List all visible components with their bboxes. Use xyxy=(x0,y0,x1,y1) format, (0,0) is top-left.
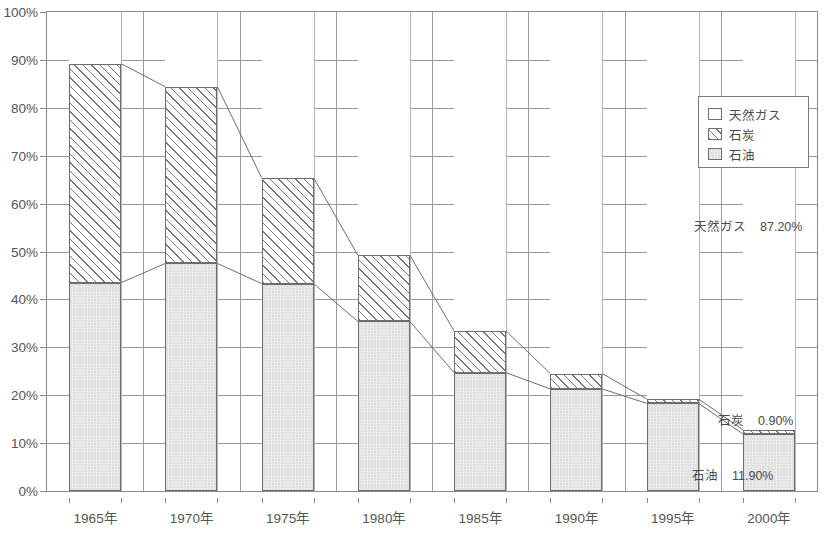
connector-line-oil xyxy=(602,389,646,403)
annotation-gas: 天然ガス87.20% xyxy=(694,216,802,235)
connector-line-oil xyxy=(410,321,454,372)
x-axis-tick-mark xyxy=(262,498,263,503)
legend-label: 石油 xyxy=(729,145,755,164)
x-axis-tick-mark xyxy=(699,498,700,503)
annotation-coal: 石炭0.90% xyxy=(718,410,793,429)
legend-item[interactable]: 石炭 xyxy=(708,124,808,144)
bar-column[interactable] xyxy=(647,12,699,491)
bar-segment-gas[interactable] xyxy=(647,12,699,399)
bar-segment-oil[interactable] xyxy=(262,284,314,491)
x-axis-tick-mark xyxy=(602,498,603,503)
annotation-label: 石炭 xyxy=(718,410,744,429)
x-axis-tick-mark xyxy=(69,498,70,503)
x-axis-tick-mark xyxy=(314,498,315,503)
bar-column[interactable] xyxy=(454,12,506,491)
bar-column[interactable] xyxy=(550,12,602,491)
bar-segment-coal[interactable] xyxy=(358,255,410,321)
x-axis-tick-label: 1985年 xyxy=(459,507,502,527)
y-axis-tick-label: 90% xyxy=(11,52,38,67)
bar-segment-coal[interactable] xyxy=(262,178,314,284)
y-axis-tick-label: 0% xyxy=(18,484,38,499)
x-axis-tick-mark xyxy=(165,498,166,503)
connector-line-coal xyxy=(121,64,165,87)
bar-segment-gas[interactable] xyxy=(165,12,217,87)
x-axis-tick-mark xyxy=(454,498,455,503)
x-axis-tick-mark xyxy=(647,498,648,503)
annotation-value: 0.90% xyxy=(758,414,793,428)
connector-line-oil xyxy=(314,284,358,322)
x-axis-tick-mark xyxy=(121,498,122,503)
legend-swatch-diagonal-hatch xyxy=(708,128,722,140)
bar-segment-oil[interactable] xyxy=(647,403,699,491)
connector-line-coal xyxy=(506,331,550,374)
bar-segment-oil[interactable] xyxy=(69,283,121,491)
y-axis-tick-label: 100% xyxy=(3,5,38,20)
bar-column[interactable] xyxy=(358,12,410,491)
y-axis-tick-label: 30% xyxy=(11,340,38,355)
y-axis-tick-label: 70% xyxy=(11,148,38,163)
legend: 天然ガス石炭石油 xyxy=(698,96,809,168)
y-axis-labels: 0%10%20%30%40%50%60%70%80%90%100% xyxy=(0,11,42,492)
connector-line-oil xyxy=(506,373,550,389)
bar-column[interactable] xyxy=(262,12,314,491)
x-axis-tick-mark xyxy=(795,498,796,503)
annotation-label: 石油 xyxy=(692,465,718,484)
legend-swatch-dotted-gray xyxy=(708,148,722,160)
bar-segment-gas[interactable] xyxy=(262,12,314,178)
annotation-value: 11.90% xyxy=(732,469,773,483)
y-axis-tick-label: 60% xyxy=(11,196,38,211)
y-axis-tick-label: 50% xyxy=(11,244,38,259)
x-axis-tick-label: 1995年 xyxy=(651,507,694,527)
bar-segment-oil[interactable] xyxy=(165,263,217,491)
bar-segment-gas[interactable] xyxy=(358,12,410,255)
x-axis-tick-label: 1965年 xyxy=(74,507,117,527)
x-axis-tick-label: 1970年 xyxy=(170,507,213,527)
bar-segment-coal[interactable] xyxy=(454,331,506,373)
connector-line-coal xyxy=(602,374,646,399)
legend-label: 石炭 xyxy=(729,125,755,144)
legend-swatch-solid-white xyxy=(708,108,722,120)
connector-line-coal xyxy=(314,178,358,256)
plot-area: 天然ガス石炭石油 xyxy=(46,11,818,492)
y-axis-tick-label: 20% xyxy=(11,388,38,403)
x-axis-tick-mark xyxy=(550,498,551,503)
bar-segment-coal[interactable] xyxy=(69,64,121,283)
x-axis-tick-mark xyxy=(410,498,411,503)
bar-segment-oil[interactable] xyxy=(550,389,602,491)
connector-line-coal xyxy=(410,255,454,331)
bar-segment-oil[interactable] xyxy=(454,373,506,491)
connector-line-oil xyxy=(217,263,261,283)
x-axis-tick-label: 1975年 xyxy=(266,507,309,527)
x-axis-tick-mark xyxy=(743,498,744,503)
x-axis-tick-label: 1990年 xyxy=(555,507,598,527)
chart-canvas: 0%10%20%30%40%50%60%70%80%90%100% 天然ガス石炭… xyxy=(0,0,828,539)
y-axis-tick-label: 10% xyxy=(11,436,38,451)
connector-line-oil xyxy=(121,263,165,282)
connector-line-coal xyxy=(217,87,261,178)
annotation-label: 天然ガス xyxy=(694,216,746,235)
bar-segment-coal[interactable] xyxy=(165,87,217,264)
x-axis-tick-mark xyxy=(358,498,359,503)
bar-column[interactable] xyxy=(69,12,121,491)
series-connector-lines xyxy=(47,12,817,491)
annotation-oil: 石油11.90% xyxy=(692,465,773,484)
y-axis-tick-label: 80% xyxy=(11,100,38,115)
bar-segment-gas[interactable] xyxy=(550,12,602,374)
bar-column[interactable] xyxy=(165,12,217,491)
legend-item[interactable]: 石油 xyxy=(708,144,808,164)
bar-segment-oil[interactable] xyxy=(358,321,410,491)
legend-label: 天然ガス xyxy=(729,105,781,124)
y-axis-tick-label: 40% xyxy=(11,292,38,307)
x-axis-tick-label: 1980年 xyxy=(362,507,405,527)
bar-segment-coal[interactable] xyxy=(550,374,602,389)
annotation-value: 87.20% xyxy=(760,220,802,234)
bar-segment-gas[interactable] xyxy=(454,12,506,331)
x-axis-tick-mark xyxy=(217,498,218,503)
x-axis-labels: 1965年1970年1975年1980年1985年1990年1995年2000年 xyxy=(46,498,818,524)
legend-item[interactable]: 天然ガス xyxy=(708,104,808,124)
x-axis-tick-mark xyxy=(506,498,507,503)
x-axis-tick-label: 2000年 xyxy=(747,507,790,527)
bar-segment-gas[interactable] xyxy=(69,12,121,64)
